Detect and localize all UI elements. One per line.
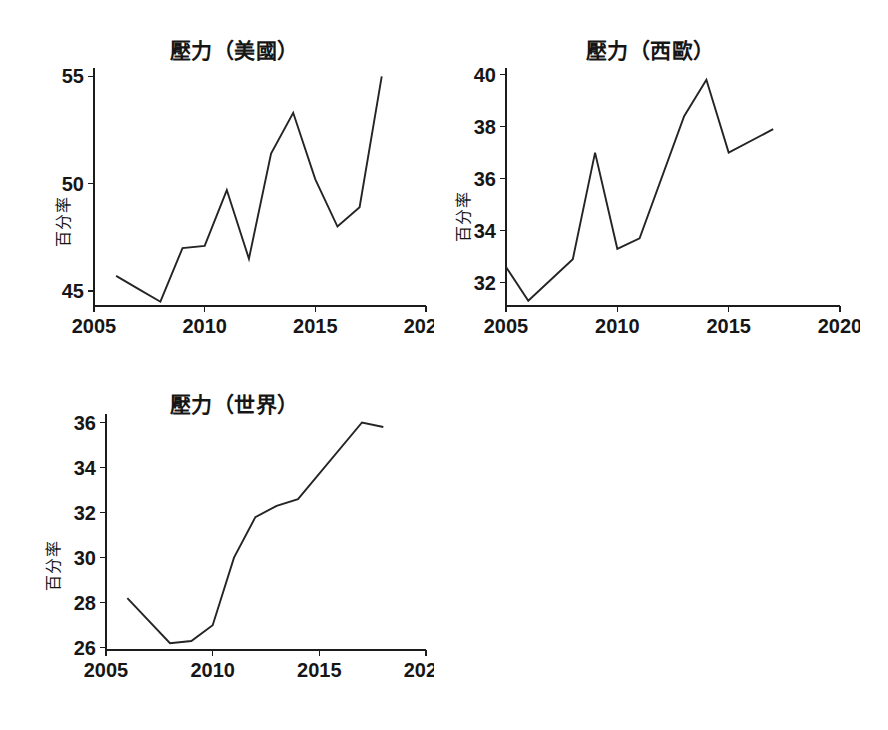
svg-text:2005: 2005 <box>72 315 117 337</box>
svg-text:2010: 2010 <box>190 659 235 681</box>
svg-text:34: 34 <box>474 220 497 242</box>
chart-panel-world: 壓力（世界） 百分率 2005201020152020262830323436 <box>34 388 434 708</box>
series-line <box>116 76 382 301</box>
series-line <box>127 423 383 644</box>
svg-text:38: 38 <box>474 116 496 138</box>
svg-text:30: 30 <box>74 547 96 569</box>
svg-text:2010: 2010 <box>182 315 227 337</box>
svg-text:28: 28 <box>74 592 96 614</box>
plot-area-us: 2005201020152020455055 <box>34 34 434 364</box>
svg-text:2015: 2015 <box>293 315 338 337</box>
svg-text:36: 36 <box>74 412 96 434</box>
svg-text:34: 34 <box>74 457 97 479</box>
series-line <box>506 80 773 301</box>
svg-text:2005: 2005 <box>484 315 529 337</box>
svg-text:2020: 2020 <box>404 315 434 337</box>
svg-text:32: 32 <box>474 272 496 294</box>
svg-text:2015: 2015 <box>706 315 751 337</box>
svg-text:40: 40 <box>474 64 496 86</box>
svg-text:45: 45 <box>62 280 84 302</box>
svg-text:2020: 2020 <box>404 659 434 681</box>
multi-panel-line-chart-figure: 壓力（美國） 百分率 2005201020152020455055 壓力（西歐）… <box>0 0 888 730</box>
svg-text:2015: 2015 <box>297 659 342 681</box>
plot-area-world: 2005201020152020262830323436 <box>34 388 434 708</box>
chart-panel-us: 壓力（美國） 百分率 2005201020152020455055 <box>34 34 434 364</box>
svg-text:2010: 2010 <box>595 315 640 337</box>
svg-text:26: 26 <box>74 637 96 659</box>
svg-text:2020: 2020 <box>818 315 860 337</box>
svg-text:2005: 2005 <box>84 659 129 681</box>
plot-area-western-europe: 20052010201520203234363840 <box>440 34 860 364</box>
svg-text:36: 36 <box>474 168 496 190</box>
chart-panel-western-europe: 壓力（西歐） 百分率 20052010201520203234363840 <box>440 34 860 364</box>
svg-text:50: 50 <box>62 173 84 195</box>
svg-text:32: 32 <box>74 502 96 524</box>
svg-text:55: 55 <box>62 65 84 87</box>
